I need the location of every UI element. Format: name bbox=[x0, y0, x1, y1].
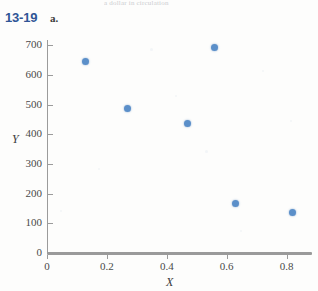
y-axis-tick-label: 600 bbox=[8, 69, 42, 80]
scan-speckle bbox=[150, 48, 153, 51]
data-point bbox=[184, 120, 191, 127]
y-axis-tick bbox=[48, 75, 53, 76]
y-axis-tick-label: 500 bbox=[8, 99, 42, 110]
x-axis-line bbox=[47, 252, 312, 255]
x-axis-tick bbox=[47, 255, 48, 259]
data-point bbox=[232, 200, 239, 207]
y-axis-tick-label: 300 bbox=[8, 158, 42, 169]
y-axis-tick-label: 200 bbox=[8, 188, 42, 199]
y-axis-tick bbox=[48, 134, 53, 135]
x-axis-tick-label: 0 bbox=[32, 261, 62, 272]
y-axis-tick bbox=[48, 164, 53, 165]
scan-speckle bbox=[240, 230, 242, 232]
y-axis-tick bbox=[48, 105, 53, 106]
x-axis-tick bbox=[167, 255, 168, 259]
x-axis-tick-label: 0.8 bbox=[272, 261, 302, 272]
scan-speckle bbox=[290, 120, 292, 122]
scan-speckle bbox=[175, 95, 177, 97]
x-axis-tick-label: 0.6 bbox=[212, 261, 242, 272]
y-axis-title: Y bbox=[12, 132, 19, 147]
x-axis-tick-label: 0.4 bbox=[152, 261, 182, 272]
x-axis-tick-label: 0.2 bbox=[92, 261, 122, 272]
scan-speckle bbox=[205, 150, 208, 153]
y-axis-line bbox=[47, 40, 48, 254]
data-point bbox=[211, 44, 218, 51]
x-axis-tick bbox=[107, 255, 108, 259]
scan-speckle bbox=[60, 210, 62, 212]
scan-speckle bbox=[98, 168, 100, 170]
y-axis-tick bbox=[48, 223, 53, 224]
data-point bbox=[289, 209, 296, 216]
y-axis-tick bbox=[48, 45, 53, 46]
data-point bbox=[82, 58, 89, 65]
x-axis-tick bbox=[227, 255, 228, 259]
figure-panel: a dollar in circulation 13-19 a. 0100200… bbox=[0, 0, 318, 291]
y-axis-tick bbox=[48, 194, 53, 195]
y-axis-tick-label: 700 bbox=[8, 39, 42, 50]
y-axis-tick-label: 100 bbox=[8, 217, 42, 228]
scan-speckle bbox=[262, 70, 264, 72]
data-point bbox=[124, 105, 131, 112]
y-axis-tick-label: 0 bbox=[8, 247, 42, 258]
x-axis-title: X bbox=[166, 275, 173, 290]
x-axis-tick bbox=[287, 255, 288, 259]
scatter-plot: 0100200300400500600700 00.20.40.60.8 Y X bbox=[0, 0, 318, 291]
